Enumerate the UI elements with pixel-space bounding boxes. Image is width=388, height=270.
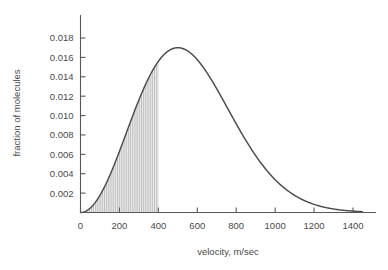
x-axis-tick-labels: 0200400600800100012001400 <box>78 220 364 231</box>
y-axis-title: fraction of molecules <box>11 69 22 156</box>
y-tick-label: 0.014 <box>50 71 74 82</box>
x-axis-title: velocity, m/sec <box>197 246 259 257</box>
y-axis-ticks <box>81 38 86 193</box>
x-tick-label: 600 <box>189 220 205 231</box>
y-tick-label: 0.004 <box>50 168 74 179</box>
y-tick-label: 0.002 <box>50 188 74 199</box>
shaded-area <box>81 18 159 213</box>
x-tick-label: 1200 <box>303 220 324 231</box>
chart-container: 0.0020.0040.0060.0080.0100.0120.0140.016… <box>0 0 388 270</box>
x-tick-label: 0 <box>78 220 83 231</box>
y-tick-label: 0.018 <box>50 32 74 43</box>
x-tick-label: 400 <box>150 220 166 231</box>
y-tick-label: 0.016 <box>50 52 74 63</box>
y-tick-label: 0.012 <box>50 91 74 102</box>
maxwell-boltzmann-plot: 0.0020.0040.0060.0080.0100.0120.0140.016… <box>0 0 388 270</box>
x-tick-label: 200 <box>112 220 128 231</box>
y-tick-label: 0.010 <box>50 110 74 121</box>
x-tick-label: 800 <box>228 220 244 231</box>
y-axis-tick-labels: 0.0020.0040.0060.0080.0100.0120.0140.016… <box>50 32 74 198</box>
x-tick-label: 1400 <box>342 220 363 231</box>
x-tick-label: 1000 <box>265 220 286 231</box>
y-tick-label: 0.008 <box>50 129 74 140</box>
y-tick-label: 0.006 <box>50 149 74 160</box>
